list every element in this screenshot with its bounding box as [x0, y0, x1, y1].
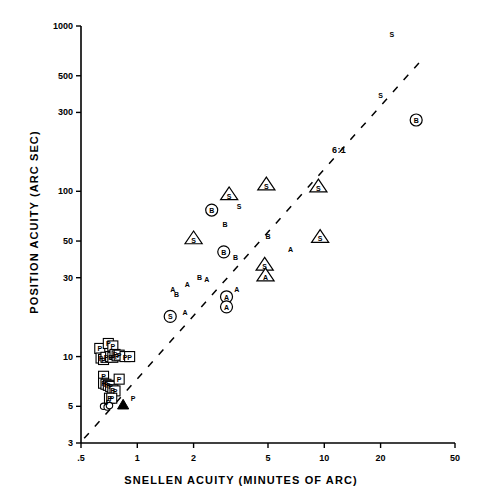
y-tick-label: 500: [19, 71, 73, 81]
marker-square-P: P: [110, 342, 115, 349]
x-tick-label: 5: [248, 453, 288, 463]
y-tick-label: 5: [19, 401, 73, 411]
marker-plain-A: A: [288, 245, 293, 252]
data-point-symbols: [95, 114, 422, 410]
marker-plain-B: B: [197, 273, 202, 280]
x-tick-label: 2: [174, 453, 214, 463]
marker-triangle-S: S: [191, 236, 196, 243]
marker-square-P: P: [113, 387, 118, 394]
x-tick-label: 50: [435, 453, 475, 463]
marker-square-P: P: [97, 345, 102, 352]
marker-triangle-S: S: [264, 182, 269, 189]
marker-square-P: P: [127, 353, 132, 360]
y-axis-title: POSITION ACUITY (ARC SEC): [28, 92, 40, 352]
marker-circle-B: B: [414, 116, 419, 123]
data-point-filled-triangle: [118, 399, 129, 409]
marker-circle-A: A: [224, 293, 229, 300]
marker-plain-S: S: [390, 30, 395, 37]
marker-triangle-S: S: [318, 235, 323, 242]
y-tick-label: 10: [19, 352, 73, 362]
y-tick-label: 1000: [19, 21, 73, 31]
marker-triangle-S: S: [227, 192, 232, 199]
marker-plain-P: P: [131, 395, 136, 402]
marker-triangle-S: S: [316, 184, 321, 191]
marker-circle-B: B: [209, 207, 214, 214]
scatter-plot-figure: 351030501003005001000.5125102050 PPPPPPP…: [0, 0, 482, 502]
marker-plain-A: A: [204, 275, 209, 282]
marker-square-P: P: [117, 376, 122, 383]
marker-plain-S: S: [378, 92, 383, 99]
marker-square-P: P: [117, 352, 122, 359]
marker-plain-B: B: [174, 290, 179, 297]
marker-plain-A: A: [234, 286, 239, 293]
marker-circle-S: S: [168, 313, 173, 320]
reference-dashed-line: [84, 60, 421, 438]
marker-plain-B: B: [265, 232, 270, 239]
marker-circle-B: B: [221, 248, 226, 255]
marker-triangle-S: S: [262, 263, 267, 270]
marker-circle-A: A: [224, 303, 229, 310]
y-tick-label: 3: [19, 438, 73, 448]
x-tick-label: 20: [361, 453, 401, 463]
marker-plain-B: B: [223, 221, 228, 228]
marker-plain-A: A: [185, 280, 190, 287]
marker-triangle-A: A: [263, 273, 268, 280]
marker-plain-B: B: [233, 254, 238, 261]
marker-square-P: P: [101, 373, 106, 380]
x-tick-label: .5: [61, 453, 101, 463]
marker-plain-P: P: [106, 399, 111, 406]
slope-ratio-annotation: 6:1: [332, 145, 346, 155]
marker-plain-S: S: [237, 202, 242, 209]
x-tick-label: 10: [304, 453, 344, 463]
marker-plain-A: A: [182, 309, 187, 316]
x-tick-label: 1: [117, 453, 157, 463]
x-axis-title: SNELLEN ACUITY (MINUTES OF ARC): [0, 474, 482, 486]
